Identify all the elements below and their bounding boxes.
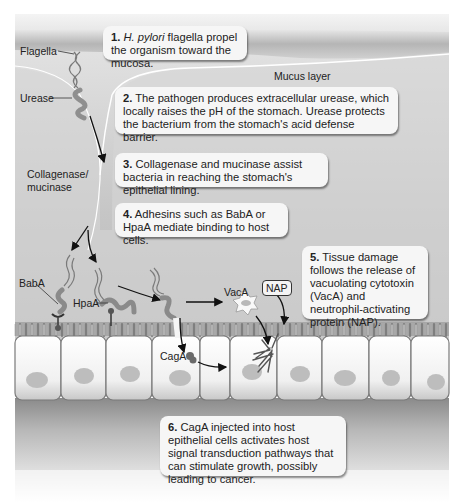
mucinase-label: mucinase xyxy=(27,181,72,193)
step-3-callout: 3. Collagenase and mucinase assist bacte… xyxy=(115,153,328,187)
step-4-callout: 4. Adhesins such as BabA or HpaA mediate… xyxy=(115,203,288,237)
caga-label: CagA xyxy=(160,350,186,362)
step-5-callout: 5. Tissue damage follows the release of … xyxy=(302,246,428,319)
hpaa-label: HpaA xyxy=(73,297,99,309)
step-2-number: 2. xyxy=(123,92,132,104)
step-4-number: 4. xyxy=(123,208,132,220)
step-3-number: 3. xyxy=(123,158,132,170)
step-6-text: CagA injected into host epithelial cells… xyxy=(168,421,333,485)
vaca-label: VacA xyxy=(224,286,248,298)
step-1-italic: H. pylori xyxy=(123,31,164,43)
mucus-layer-label: Mucus layer xyxy=(274,70,331,82)
step-1-number: 1. xyxy=(111,31,120,43)
step-5-text: Tissue damage follows the release of vac… xyxy=(310,251,415,328)
step-6-number: 6. xyxy=(168,421,177,433)
pathogenesis-diagram: Flagella Urease Collagenase/ mucinase Mu… xyxy=(0,0,462,503)
step-1-callout: 1. H. pylori flagella propel the organis… xyxy=(103,26,247,60)
step-6-callout: 6. CagA injected into host epithelial ce… xyxy=(160,416,346,476)
flagella-label: Flagella xyxy=(20,45,57,57)
baba-label: BabA xyxy=(19,277,45,289)
collagenase-label: Collagenase/ xyxy=(27,168,88,180)
step-5-number: 5. xyxy=(310,251,319,263)
step-2-callout: 2. The pathogen produces extracellular u… xyxy=(115,87,398,134)
urease-label: Urease xyxy=(20,92,54,104)
nap-label: NAP xyxy=(262,280,292,296)
